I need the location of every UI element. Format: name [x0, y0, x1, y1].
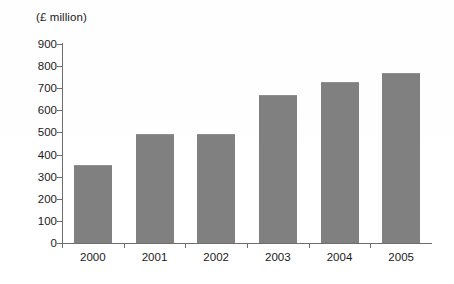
y-axis-tick-mark	[57, 221, 62, 222]
y-axis-tick-labels: 9008007006005004003002001000	[0, 0, 57, 284]
x-axis-tick-mark	[370, 244, 371, 248]
y-axis-tick-mark	[57, 66, 62, 67]
y-axis-tick-mark	[57, 155, 62, 156]
y-axis-tick-label: 800	[38, 60, 57, 72]
y-axis-tick-label: 300	[38, 171, 57, 183]
x-axis-tick-mark	[62, 244, 63, 248]
x-axis-category-label: 2000	[63, 251, 123, 263]
bar	[321, 82, 359, 243]
plot-area	[62, 44, 432, 243]
x-axis-tick-mark	[309, 244, 310, 248]
y-axis-tick-label: 600	[38, 104, 57, 116]
y-axis-tick-mark	[57, 44, 62, 45]
x-axis-category-label: 2002	[186, 251, 246, 263]
y-axis-tick-label: 900	[38, 38, 57, 50]
x-axis-category-label: 2001	[125, 251, 185, 263]
bar	[197, 134, 235, 243]
y-axis-tick-label: 700	[38, 82, 57, 94]
bar	[74, 165, 112, 243]
x-axis-category-label: 2005	[371, 251, 431, 263]
x-axis-tick-mark	[247, 244, 248, 248]
x-axis-tick-mark	[124, 244, 125, 248]
y-axis-tick-mark	[57, 177, 62, 178]
y-axis-tick-label: 100	[38, 215, 57, 227]
y-axis-tick-mark	[57, 199, 62, 200]
y-axis-tick-mark	[57, 88, 62, 89]
bar-chart: (£ million) 9008007006005004003002001000…	[0, 0, 454, 284]
x-axis-category-label: 2003	[248, 251, 308, 263]
y-axis-tick-mark	[57, 132, 62, 133]
bar	[382, 73, 420, 243]
y-axis-tick-mark	[57, 110, 62, 111]
bar	[259, 95, 297, 243]
y-axis-tick-label: 400	[38, 149, 57, 161]
bar	[136, 134, 174, 243]
y-axis-tick-label: 500	[38, 126, 57, 138]
x-axis-category-label: 2004	[310, 251, 370, 263]
y-axis-tick-label: 200	[38, 193, 57, 205]
x-axis-tick-mark	[185, 244, 186, 248]
